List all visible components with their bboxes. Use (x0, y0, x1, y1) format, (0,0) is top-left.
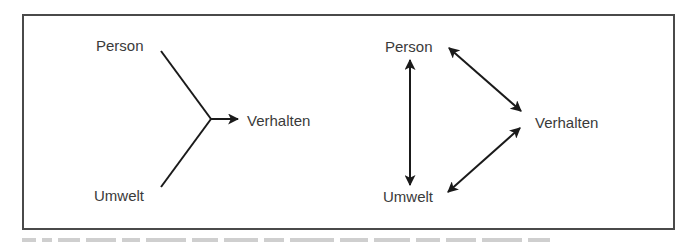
left-umwelt-label: Umwelt (94, 188, 144, 203)
left-diagram (161, 51, 238, 187)
right-verhalten-label: Verhalten (535, 115, 598, 130)
figure-caption-cutoff (22, 238, 662, 243)
person-verhalten-double-arrow (449, 48, 521, 111)
left-verhalten-label: Verhalten (247, 113, 310, 128)
left-person-label: Person (96, 38, 144, 53)
right-diagram (410, 48, 521, 192)
right-umwelt-label: Umwelt (383, 189, 433, 204)
umwelt-to-junction-line (161, 119, 211, 187)
person-to-junction-line (161, 51, 211, 119)
umwelt-verhalten-double-arrow (448, 128, 520, 192)
right-person-label: Person (385, 39, 433, 54)
